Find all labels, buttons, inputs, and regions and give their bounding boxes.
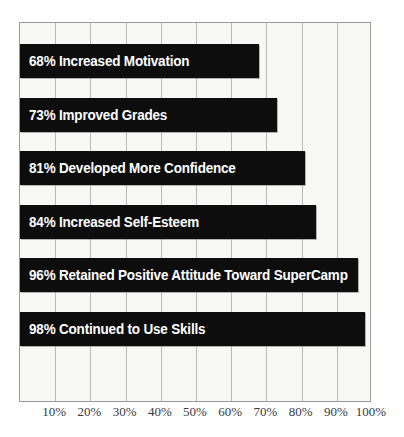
x-tick-label: 10%: [42, 404, 66, 420]
bar: 96% Retained Positive Attitude Toward Su…: [20, 258, 358, 292]
bar-row: 84% Increased Self-Esteem: [20, 205, 372, 239]
x-tick-label: 20%: [77, 404, 101, 420]
x-tick-label: 100%: [356, 404, 386, 420]
bars-container: 68% Increased Motivation73% Improved Gra…: [20, 23, 370, 401]
x-tick-label: 40%: [148, 404, 172, 420]
bar: 68% Increased Motivation: [20, 44, 259, 78]
plot-area: 68% Increased Motivation73% Improved Gra…: [19, 22, 371, 402]
x-tick-label: 60%: [218, 404, 242, 420]
bar-chart-figure: 68% Increased Motivation73% Improved Gra…: [0, 0, 404, 437]
bar: 81% Developed More Confidence: [20, 151, 305, 185]
x-tick-label: 80%: [289, 404, 313, 420]
x-tick-label: 90%: [324, 404, 348, 420]
bar-value-label: 81% Developed More Confidence: [29, 151, 236, 185]
bar: 84% Increased Self-Esteem: [20, 205, 316, 239]
bar-value-label: 98% Continued to Use Skills: [29, 312, 205, 346]
bar-row: 68% Increased Motivation: [20, 44, 372, 78]
x-tick-label: 30%: [113, 404, 137, 420]
bar-value-label: 68% Increased Motivation: [29, 44, 189, 78]
bar-row: 73% Improved Grades: [20, 98, 372, 132]
x-tick-label: 50%: [183, 404, 207, 420]
bar-row: 98% Continued to Use Skills: [20, 312, 372, 346]
bar: 98% Continued to Use Skills: [20, 312, 365, 346]
x-axis-tick-labels: 10%20%30%40%50%60%70%80%90%100%: [19, 404, 371, 428]
bar-row: 96% Retained Positive Attitude Toward Su…: [20, 258, 372, 292]
bar-value-label: 73% Improved Grades: [29, 98, 167, 132]
bar-value-label: 84% Increased Self-Esteem: [29, 205, 199, 239]
bar: 73% Improved Grades: [20, 98, 277, 132]
bar-value-label: 96% Retained Positive Attitude Toward Su…: [29, 258, 348, 292]
x-tick-label: 70%: [253, 404, 277, 420]
bar-row: 81% Developed More Confidence: [20, 151, 372, 185]
